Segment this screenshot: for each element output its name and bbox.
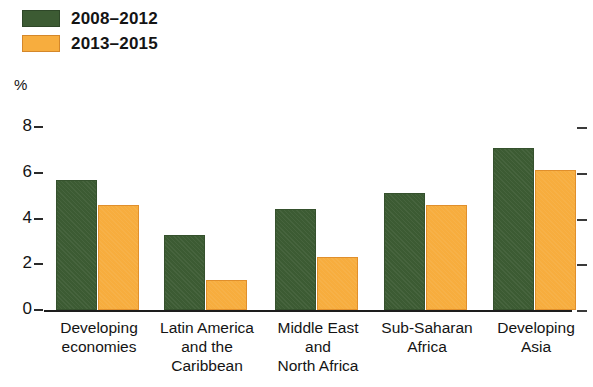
y-tick-label: 6 <box>23 162 32 182</box>
x-axis-label-line: and <box>259 337 377 356</box>
x-axis-label: Middle EastandNorth Africa <box>259 318 377 375</box>
bar-group <box>56 110 142 310</box>
bar-series1 <box>275 209 316 310</box>
bar-series2 <box>317 257 358 310</box>
x-axis-label-line: Middle East <box>259 318 377 337</box>
x-axis-label: Latin Americaand theCaribbean <box>148 318 266 375</box>
bar-series1 <box>56 180 97 310</box>
bar-series2 <box>535 170 576 310</box>
y-tick-mark <box>34 263 43 265</box>
legend-item-2008-2012: 2008–2012 <box>22 8 158 29</box>
y-tick-mark <box>34 126 43 128</box>
x-axis-label-line: Africa <box>368 337 486 356</box>
bar-series2 <box>98 205 139 310</box>
y-tick-mark <box>34 309 43 311</box>
chart-legend: 2008–2012 2013–2015 <box>22 8 158 54</box>
bar-series1 <box>384 193 425 310</box>
x-axis-line <box>44 310 572 312</box>
x-axis-label-line: Caribbean <box>148 356 266 375</box>
x-axis-label-line: North Africa <box>259 356 377 375</box>
y-tick-label: 2 <box>23 253 32 273</box>
bar-chart: 2008–2012 2013–2015 % 86420 Developingec… <box>0 0 593 387</box>
x-axis-label-line: Latin America <box>148 318 266 337</box>
x-axis-label-line: and the <box>148 337 266 356</box>
bar-group <box>164 110 250 310</box>
y-tick-label: 0 <box>23 299 32 319</box>
bar-group <box>275 110 361 310</box>
legend-swatch-orange <box>22 35 60 52</box>
y-tick-mark <box>34 172 43 174</box>
y-tick-label: 4 <box>23 208 32 228</box>
x-axis-label: Sub-SaharanAfrica <box>368 318 486 356</box>
legend-label-2008-2012: 2008–2012 <box>71 9 158 29</box>
x-axis-label: DevelopingAsia <box>477 318 593 356</box>
x-axis-labels: DevelopingeconomiesLatin Americaand theC… <box>38 318 583 386</box>
x-axis-label-line: Developing <box>40 318 158 337</box>
y-tick-mark-right-0 <box>577 310 587 312</box>
bar-group <box>384 110 470 310</box>
legend-label-2013-2015: 2013–2015 <box>71 34 158 54</box>
legend-item-2013-2015: 2013–2015 <box>22 33 158 54</box>
bar-series2 <box>206 280 247 310</box>
y-tick-mark <box>34 218 43 220</box>
x-axis-label-line: economies <box>40 337 158 356</box>
x-axis-label: Developingeconomies <box>40 318 158 356</box>
bar-groups <box>46 110 570 310</box>
y-tick-label: 8 <box>23 116 32 136</box>
bar-group <box>493 110 579 310</box>
bar-series2 <box>426 205 467 310</box>
bar-series1 <box>493 148 534 310</box>
x-axis-label-line: Sub-Saharan <box>368 318 486 337</box>
bar-series1 <box>164 235 205 310</box>
x-axis-label-line: Asia <box>477 337 593 356</box>
y-axis-unit-label: % <box>14 76 27 93</box>
legend-swatch-green <box>22 10 60 27</box>
x-axis-label-line: Developing <box>477 318 593 337</box>
